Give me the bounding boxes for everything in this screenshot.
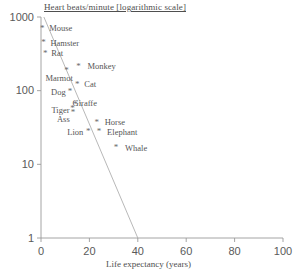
data-point-label: Ass xyxy=(57,115,70,124)
data-point-marker: * xyxy=(86,126,91,136)
data-point-label: Marmot xyxy=(45,74,72,83)
data-point-label: Lion xyxy=(67,128,83,137)
plot-area: ************** xyxy=(0,0,297,274)
x-tick-label: 20 xyxy=(75,246,103,257)
data-point-label: Rat xyxy=(51,49,63,58)
data-point-label: Hamster xyxy=(50,39,79,48)
data-point-label: Giraffe xyxy=(73,99,97,108)
data-point-label: Monkey xyxy=(88,62,116,71)
y-tick-label: 100 xyxy=(0,85,34,96)
x-axis-title: Life expectancy (years) xyxy=(0,259,297,269)
y-tick-label: 1000 xyxy=(0,12,34,23)
data-point-label: Cat xyxy=(84,80,96,89)
y-tick-label: 1 xyxy=(0,233,34,244)
data-point-label: Dog xyxy=(51,88,66,97)
data-point-marker: * xyxy=(75,79,80,89)
data-point-label: Elephant xyxy=(107,128,137,137)
x-tick-label: 40 xyxy=(124,246,152,257)
x-tick-label: 0 xyxy=(27,246,55,257)
data-point-marker: * xyxy=(41,37,46,47)
data-point-label: Horse xyxy=(105,118,125,127)
data-point-label: Whale xyxy=(125,144,147,153)
chart-container: Heart beats/minute [logarithmic scale] *… xyxy=(0,0,297,274)
data-point-marker: * xyxy=(76,61,81,71)
data-point-marker: * xyxy=(114,142,119,152)
data-point-marker: * xyxy=(68,86,73,96)
x-tick-label: 60 xyxy=(172,246,200,257)
data-point-label: Mouse xyxy=(49,24,72,33)
data-point-marker: * xyxy=(97,126,102,136)
data-point-marker: * xyxy=(40,23,45,33)
data-point-label: Tiger xyxy=(51,106,69,115)
data-point-marker: * xyxy=(43,48,48,58)
x-tick-label: 100 xyxy=(269,246,297,257)
y-tick-label: 10 xyxy=(0,159,34,170)
data-point-marker: * xyxy=(71,107,76,117)
x-tick-label: 80 xyxy=(221,246,249,257)
